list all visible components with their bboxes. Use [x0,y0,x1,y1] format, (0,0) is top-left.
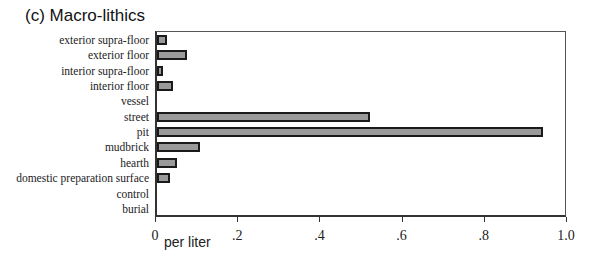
bar [157,127,543,137]
x-tick [237,217,238,222]
x-tick [155,217,156,222]
x-tick [484,217,485,222]
x-tick [319,217,320,222]
x-tick-label: .2 [232,228,243,244]
category-label: hearth [120,157,149,169]
x-tick-label: .8 [479,228,490,244]
category-label: interior supra-floor [61,65,149,77]
category-label: mudbrick [105,141,149,153]
category-label: exterior supra-floor [59,34,149,46]
x-tick [566,217,567,222]
category-label: pit [137,126,149,138]
category-label: burial [122,203,149,215]
category-label: exterior floor [88,49,149,61]
x-axis-label: per liter [164,234,211,250]
bar [157,50,187,60]
bar [157,158,177,168]
category-label: street [124,111,149,123]
bar [157,142,200,152]
category-label: vessel [121,95,149,107]
category-label: control [116,188,149,200]
bar [157,173,170,183]
category-label: domestic preparation surface [16,172,149,184]
x-tick-label: 0 [152,228,159,244]
bar [157,112,370,122]
plot-area [155,31,566,217]
x-tick-label: .6 [396,228,407,244]
category-label: interior floor [90,80,149,92]
x-tick-label: .4 [314,228,325,244]
bar [157,66,163,76]
bar [157,81,173,91]
x-tick [402,217,403,222]
chart-title: (c) Macro-lithics [25,6,145,26]
bar [157,35,167,45]
x-tick-label: 1.0 [557,228,575,244]
